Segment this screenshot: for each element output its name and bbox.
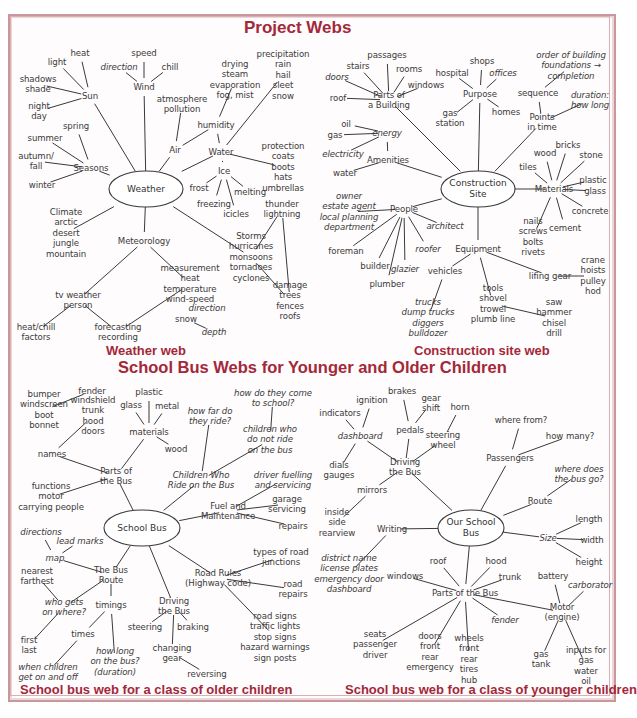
- connector-line: [120, 484, 133, 510]
- web-node-precip: precipitation rain hail sleet snow: [257, 49, 310, 101]
- web-node-district: district name license plates emergency d…: [314, 553, 383, 595]
- web-node-shadows: shadows shade: [20, 74, 57, 95]
- web-node-brakes: brakes: [388, 386, 416, 396]
- web-node-passages: passages: [367, 50, 406, 60]
- web-node-carborator: carborator: [568, 580, 612, 590]
- web-node-roadrules: Road Rules (Highway code): [185, 568, 251, 589]
- connector-line: [487, 99, 498, 107]
- web-node-points: Points in time: [527, 112, 556, 133]
- web-node-air: Air: [169, 145, 181, 155]
- web-node-tools: tools shovel trowel plumb line: [471, 283, 515, 325]
- web-node-indicators: indicators: [319, 408, 360, 418]
- connector-line: [535, 173, 547, 183]
- connector-line: [172, 615, 173, 644]
- web-node-glass: glass: [584, 186, 606, 196]
- web-node-gastank: gas tank: [532, 649, 551, 670]
- web-node-speed: speed: [131, 48, 156, 58]
- web-node-heat: heat: [71, 48, 90, 58]
- web-node-howmany: how many?: [546, 431, 594, 441]
- web-node-humidity: humidity: [197, 120, 234, 130]
- web-node-reversing: reversing: [187, 669, 226, 679]
- connector-line: [444, 568, 459, 586]
- connector-line: [556, 543, 581, 558]
- connector-line: [556, 198, 562, 220]
- connector-line: [82, 62, 88, 87]
- web-node-notride: children who do not ride on the bus: [243, 424, 297, 455]
- web-node-plastic: plastic: [135, 387, 162, 397]
- web-node-stairs: stairs: [347, 61, 370, 71]
- web-node-braking: braking: [177, 622, 209, 632]
- web-node-metal: metal: [155, 401, 179, 411]
- web-node-repairs: repairs: [278, 521, 307, 531]
- web-node-heatchill: heat/chill factors: [17, 322, 56, 343]
- web-node-mdir: direction: [189, 303, 226, 313]
- web-node-water: water: [333, 168, 357, 178]
- web-node-rooms: rooms: [396, 64, 422, 74]
- web-center-bus_younger: Our School Bus: [446, 517, 495, 539]
- web-node-gas: gas station: [436, 108, 465, 129]
- web-node-winter: winter: [29, 180, 55, 190]
- web-node-driving: Driving the Bus: [158, 596, 190, 617]
- web-node-drying: drying steam evaporation fog, mist: [210, 59, 261, 101]
- web-node-protection: protection coats boots hats umbrellas: [262, 141, 305, 193]
- web-node-duration: duration: how long: [571, 90, 609, 111]
- web-node-thunder: thunder lightning: [264, 199, 301, 220]
- web-node-lifting: lifing gear: [529, 271, 571, 281]
- web-node-hood: hood: [485, 556, 506, 566]
- connector-line: [95, 104, 136, 172]
- web-node-spring: spring: [63, 121, 89, 131]
- web-node-concrete: concrete: [572, 206, 609, 216]
- web-node-roofer: roofer: [415, 244, 440, 254]
- connector-line: [481, 70, 482, 85]
- web-node-doors: doors front rear emergency: [406, 631, 453, 673]
- connector-line: [151, 72, 163, 81]
- web-node-materials: materials: [129, 427, 168, 437]
- web-center-bus_older: School Bus: [117, 523, 166, 534]
- web-node-damage: damage trees fences roofs: [273, 280, 308, 322]
- web-node-wheredoes: where does the bus go?: [554, 464, 603, 485]
- connector-line: [459, 78, 473, 88]
- web-node-atmosphere: atmosphere pollution: [157, 94, 208, 115]
- connector-line: [481, 466, 506, 510]
- web-node-width: width: [580, 535, 603, 545]
- web-node-cwho: Children Who Ride on the Bus: [168, 470, 234, 491]
- connector-line: [478, 103, 479, 171]
- web-node-inputs: inputs for gas water oil: [566, 645, 606, 687]
- web-node-sequence: sequence: [518, 88, 559, 98]
- web-node-builder: builder: [360, 261, 389, 271]
- web-node-measurement: measurement heat temperature wind-speed: [161, 263, 220, 305]
- web-node-frost: frost: [190, 183, 209, 193]
- connector-line: [472, 598, 497, 615]
- web-node-howcome: how do they come to school?: [234, 388, 312, 409]
- web-node-wheels: wheels front rear tires hub: [454, 633, 483, 685]
- connector-line: [183, 130, 209, 146]
- web-node-architect: architect: [426, 221, 463, 231]
- connector-line: [182, 156, 213, 171]
- web-node-names: names: [38, 449, 66, 459]
- web-node-wood: wood: [534, 148, 557, 158]
- web-node-pedals: pedals: [396, 425, 424, 435]
- web-node-first: first last: [21, 635, 37, 656]
- web-node-oil: oil: [341, 119, 351, 129]
- web-node-lead: lead marks: [57, 536, 104, 546]
- connector-line: [557, 538, 583, 539]
- web-node-length: length: [576, 514, 603, 524]
- connector-line: [556, 523, 581, 534]
- web-node-roadrep: road repairs: [278, 579, 307, 600]
- web-node-timings: timings: [95, 600, 126, 610]
- connector-line: [79, 134, 88, 159]
- web-node-steeringw: steering wheel: [426, 430, 460, 451]
- web-node-ice: Ice: [218, 166, 230, 176]
- connector-line: [409, 217, 424, 242]
- connector-line: [159, 157, 170, 171]
- connector-line: [121, 439, 143, 469]
- web-node-shops: shops: [470, 56, 495, 66]
- web-node-roof: roof: [330, 93, 347, 103]
- web-node-whenchildren: when children get on and off: [18, 662, 77, 683]
- web-node-icicles: icicles: [223, 209, 249, 219]
- web-node-equipment: Equipment: [455, 244, 501, 254]
- web-node-wind: Wind: [133, 82, 154, 92]
- web-node-horn: horn: [450, 402, 469, 412]
- web-node-owner: owner estate agent local planning depart…: [320, 191, 379, 233]
